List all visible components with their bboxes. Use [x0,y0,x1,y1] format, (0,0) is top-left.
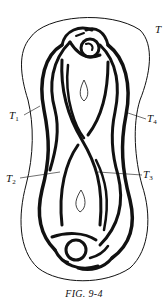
strand-right-inner [100,45,121,245]
knot-diagram [0,0,168,305]
label-t4: T4 [147,113,157,126]
leader-t2 [20,172,60,178]
upper-hole [80,80,88,101]
label-t3: T3 [143,169,153,182]
top-knot [62,28,108,57]
label-t: T [155,24,161,35]
label-t2: T2 [6,173,16,186]
strand-t1 [39,45,62,250]
lower-hole [76,190,85,212]
bottom-knot [52,234,112,270]
label-t1: T1 [9,110,19,123]
leader-t3 [98,172,142,175]
strand-x-2 [88,62,108,135]
strand-x-2b [61,145,78,225]
leader-t1 [24,106,40,115]
figure-caption: FIG. 9-4 [0,288,168,299]
